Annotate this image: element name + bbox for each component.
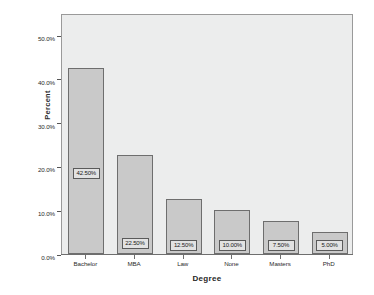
- x-axis-tick-mark: [183, 255, 184, 259]
- x-axis-tick-mark: [231, 255, 232, 259]
- bar-value-label: 10.00%: [219, 240, 246, 251]
- y-axis-tick-label: 10.0%: [38, 210, 57, 217]
- y-axis-tick-label: 50.0%: [38, 35, 57, 42]
- y-axis-tick: 30.0%: [38, 119, 61, 129]
- y-axis-tick-label: 20.0%: [38, 166, 57, 173]
- y-axis-tick: 10.0%: [38, 206, 61, 216]
- bar-value-label: 7.50%: [268, 240, 295, 251]
- x-axis-title: Degree: [61, 274, 353, 283]
- y-axis-tick-label: 40.0%: [38, 79, 57, 86]
- bar-value-label: 42.50%: [73, 168, 100, 179]
- x-axis-tick-mark: [280, 255, 281, 259]
- y-axis-tick: 50.0%: [38, 31, 61, 41]
- y-axis-tick-label: 30.0%: [38, 123, 57, 130]
- plot-area: 42.50%22.50%12.50%10.00%7.50%5.00%: [61, 14, 353, 255]
- bars-layer: 42.50%22.50%12.50%10.00%7.50%5.00%: [62, 15, 352, 254]
- bar-chart: Percent 0.0%10.0%20.0%30.0%40.0%50.0% 42…: [0, 0, 374, 295]
- bar: [68, 68, 104, 254]
- x-axis-tick-mark: [329, 255, 330, 259]
- x-axis-tick-mark: [85, 255, 86, 259]
- x-axis-tick-label: PhD: [299, 260, 359, 267]
- y-axis-tick: 20.0%: [38, 162, 61, 172]
- y-axis: 0.0%10.0%20.0%30.0%40.0%50.0%: [0, 0, 61, 295]
- y-axis-tick: 40.0%: [38, 75, 61, 85]
- bar-value-label: 12.50%: [170, 240, 197, 251]
- x-axis-tick-mark: [134, 255, 135, 259]
- bar-value-label: 5.00%: [316, 240, 343, 251]
- bar-value-label: 22.50%: [122, 238, 149, 249]
- x-axis-line: [61, 254, 353, 255]
- y-axis-tick: 0.0%: [41, 250, 61, 260]
